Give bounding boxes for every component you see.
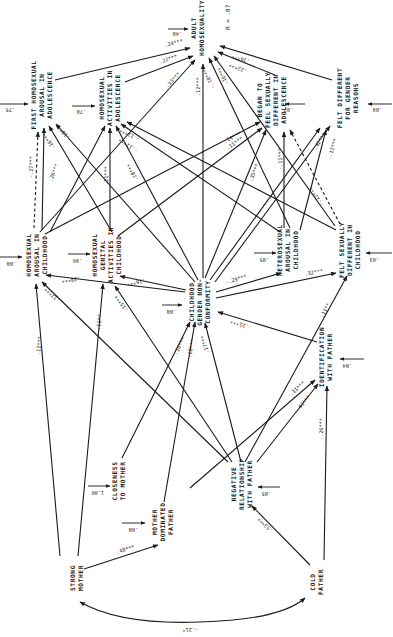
- svg-text:GENITAL: GENITAL: [99, 240, 106, 270]
- residual-gnc: .88: [167, 309, 176, 315]
- svg-text:NEGATIVE: NEGATIVE: [230, 467, 237, 502]
- svg-text:CONFORMITY: CONFORMITY: [204, 280, 211, 323]
- svg-text:FEEL SEXUALLY: FEEL SEXUALLY: [264, 72, 271, 128]
- node-felt-different-gender-reasons: FELT DIFFERENT FOR GENDER REASONS: [336, 68, 359, 129]
- svg-text:FATHER: FATHER: [167, 509, 174, 535]
- svg-text:AROUSAL IN: AROUSAL IN: [33, 233, 40, 276]
- svg-text:COLD: COLD: [309, 573, 316, 590]
- edge-cold-father-to-identification: [324, 386, 327, 560]
- svg-text:DIFFERENT IN: DIFFERENT IN: [346, 224, 353, 276]
- coef-genital-to-activities: .21***: [103, 166, 109, 185]
- residual-mother-dom: .88: [129, 527, 138, 533]
- svg-text:CHILDHOOD: CHILDHOOD: [354, 231, 361, 270]
- svg-text:IDENTIFICATION: IDENTIFICATION: [318, 327, 325, 388]
- residual-closeness: 1.00: [92, 490, 105, 496]
- coef-felt-child-to-gender: -.12***: [326, 138, 338, 161]
- edge-arousal-child-to-first-2: [42, 128, 44, 230]
- coef-gnc-to-began: .35***: [247, 163, 260, 183]
- node-identification-with-father: IDENTIFICATION WITH FATHER: [318, 327, 333, 388]
- node-negative-relationship-with-father: NEGATIVE RELATIONSHIP WITH FATHER: [230, 458, 253, 510]
- node-adult-homosexuality: ADULT HOMOSEXUALITY: [190, 0, 205, 56]
- node-first-homosexual-arousal-adolescence: FIRST HOMOSEXUAL AROUSAL IN ADOLESCENCE: [30, 60, 53, 129]
- coef-mother-dom-to-gnc: .18***: [186, 339, 195, 359]
- residual-negative: .85: [262, 491, 271, 497]
- svg-text:AROUSAL IN: AROUSAL IN: [284, 228, 291, 271]
- coef-gnc-to-felt-child: .32***: [304, 267, 324, 277]
- svg-text:CHILDHOOD: CHILDHOOD: [292, 231, 299, 270]
- svg-text:FATHER: FATHER: [317, 569, 324, 595]
- node-childhood-gender-nonconformity: CHILDHOOD GENDER NON- CONFORMITY: [188, 278, 211, 326]
- coef-cold-father-to-identification: -.26***: [318, 418, 324, 440]
- coef-strong-mother-cold-father: -.21*: [182, 627, 198, 633]
- svg-text:TO MOTHER: TO MOTHER: [119, 462, 126, 501]
- edge-strong-mother-to-arousal-child: [36, 284, 60, 556]
- svg-text:HOMOSEXUAL: HOMOSEXUAL: [25, 233, 32, 276]
- coef-identification-to-felt-child: .11**: [319, 302, 332, 319]
- node-began-feel-sexually-different-adolescence: BEGAN TO FEEL SEXUALLY DIFFERENT IN ADOL…: [256, 72, 287, 128]
- node-strong-mother: STRONG MOTHER: [69, 565, 84, 591]
- r-squared-label: R = .87: [224, 4, 231, 30]
- residual-first-arousal: .75: [6, 107, 15, 113]
- coef-gnc-to-gender: .42***: [312, 131, 327, 150]
- coef-arousal-child-to-adult: .33***: [164, 71, 181, 89]
- residual-felt-child: .93: [370, 257, 379, 263]
- svg-text:HETEROSEXUAL: HETEROSEXUAL: [276, 224, 283, 276]
- edge-negative-father-to-gnc: [205, 323, 241, 462]
- edges: [34, 46, 347, 622]
- svg-text:CLOSENESS: CLOSENESS: [111, 462, 118, 501]
- svg-text:STRONG: STRONG: [69, 565, 76, 591]
- edge-gnc-to-began: [205, 130, 266, 278]
- svg-text:ADULT: ADULT: [190, 17, 197, 39]
- residual-arousal-child: .88: [7, 261, 16, 267]
- coef-first-to-adult: .24***: [164, 38, 184, 48]
- residual-genital: .96: [73, 258, 82, 264]
- svg-text:ADOLESCENCE: ADOLESCENCE: [280, 76, 287, 124]
- residual-identification: .84: [343, 363, 352, 369]
- svg-text:ADOLESCENCE: ADOLESCENCE: [46, 71, 53, 119]
- node-homosexual-activities-adolescence: HOMOSEXUAL ACTIVITIES IN ADOLESCENCE: [98, 70, 121, 126]
- residual-activities-adol: .78: [77, 109, 86, 115]
- coef-gnc-to-hetero: -.29***: [225, 273, 248, 285]
- svg-text:ACTIVITIES IN: ACTIVITIES IN: [106, 70, 113, 126]
- svg-text:AROUSAL IN: AROUSAL IN: [38, 73, 45, 116]
- svg-text:FIRST HOMOSEXUAL: FIRST HOMOSEXUAL: [30, 60, 37, 129]
- edge-cold-father-to-negative: [252, 506, 310, 565]
- svg-text:ADOLESCENCE: ADOLESCENCE: [114, 74, 121, 122]
- svg-text:GENDER NON-: GENDER NON-: [196, 278, 203, 326]
- edge-strong-mother-cold-father-correlation: [80, 598, 305, 622]
- residual-gender: .89: [373, 107, 382, 113]
- node-mother-dominated-father: MOTHER DOMINATED FATHER: [151, 503, 174, 542]
- svg-text:DIFFERENT IN: DIFFERENT IN: [272, 74, 279, 126]
- svg-text:REASONS: REASONS: [352, 83, 359, 113]
- residual-adult: .48: [173, 31, 182, 37]
- svg-text:FOR GENDER: FOR GENDER: [344, 76, 351, 119]
- svg-text:HOMOSEXUAL: HOMOSEXUAL: [98, 76, 105, 119]
- node-heterosexual-arousal-childhood: HETEROSEXUAL AROUSAL IN CHILDHOOD: [276, 224, 299, 276]
- edge-genital-to-began: [118, 128, 262, 236]
- svg-text:BEGAN TO: BEGAN TO: [256, 83, 263, 118]
- node-homosexual-genital-activities-childhood: HOMOSEXUAL GENITAL ACTIVITIES IN CHILDHO…: [91, 227, 122, 283]
- svg-text:CHILDHOOD: CHILDHOOD: [188, 283, 195, 322]
- coef-dashed-arousal-to-first: -.27***: [28, 156, 34, 178]
- svg-text:HOMOSEXUAL: HOMOSEXUAL: [91, 233, 98, 276]
- svg-text:MOTHER: MOTHER: [77, 565, 84, 591]
- svg-text:WITH FATHER: WITH FATHER: [326, 333, 333, 381]
- coef-hetero-to-began: -.11***: [277, 148, 283, 170]
- nodes: ADULT HOMOSEXUALITY FIRST HOMOSEXUAL ARO…: [25, 0, 361, 595]
- coef-gender-to-adult: .16***: [231, 53, 251, 65]
- coef-negative-father-to-arousal: .17***: [43, 286, 61, 303]
- edge-identification-to-gnc: [218, 312, 317, 342]
- svg-text:CHILDHOOD: CHILDHOOD: [115, 236, 122, 275]
- svg-text:MOTHER: MOTHER: [151, 509, 158, 535]
- svg-text:DOMINATED: DOMINATED: [159, 503, 166, 542]
- coef-gnc-to-adult: .12***: [195, 77, 201, 96]
- svg-text:FELT DIFFERENT: FELT DIFFERENT: [336, 68, 343, 129]
- svg-text:HOMOSEXUALITY: HOMOSEXUALITY: [198, 0, 205, 56]
- path-diagram: .24*** .22*** .33*** .12*** -.10*** .10*…: [0, 0, 393, 637]
- svg-text:CHILDHOOD: CHILDHOOD: [41, 236, 48, 275]
- node-homosexual-arousal-childhood: HOMOSEXUAL AROUSAL IN CHILDHOOD: [25, 233, 48, 276]
- coef-arousal-child-to-first: .26***: [47, 163, 59, 183]
- coef-identification-to-gnc: -.21***: [230, 319, 253, 331]
- node-closeness-to-mother: CLOSENESS TO MOTHER: [111, 462, 126, 501]
- svg-text:WITH FATHER: WITH FATHER: [246, 460, 253, 508]
